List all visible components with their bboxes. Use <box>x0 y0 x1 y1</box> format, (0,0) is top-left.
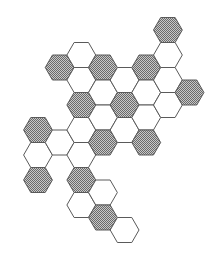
hex-grid-diagram <box>0 0 215 261</box>
hex-cells-group <box>24 18 204 243</box>
hex-cell-filled <box>154 18 183 43</box>
hex-cell-filled <box>24 168 53 193</box>
